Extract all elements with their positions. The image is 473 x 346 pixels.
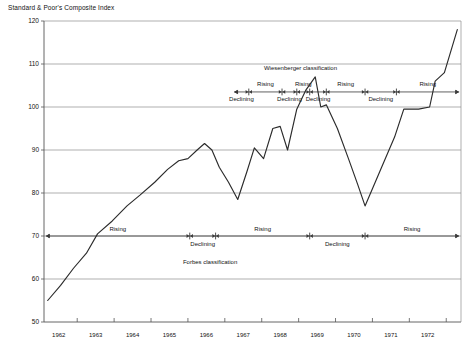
y-tick-label-60: 60 <box>32 275 40 282</box>
segment-arrow-start <box>46 234 49 238</box>
segment-arrow-start <box>310 90 313 94</box>
segment-label-rising: Rising <box>254 226 271 232</box>
annotation-band-0: Wiesenberger classificationDecliningRisi… <box>229 65 459 102</box>
x-tick-label-1963: 1963 <box>89 332 103 338</box>
chart-page: Standard & Poor's Composite Index 506070… <box>0 0 473 346</box>
segment-arrow-start <box>297 90 300 94</box>
segment-arrow-end <box>187 234 190 238</box>
y-tick-label-50: 50 <box>32 318 40 325</box>
x-tick-label-1969: 1969 <box>310 332 324 338</box>
y-tick-label-100: 100 <box>28 103 39 110</box>
x-tick-label-1967: 1967 <box>237 332 251 338</box>
y-tick-label-90: 90 <box>32 146 40 153</box>
segment-label-declining: Declining <box>229 96 254 102</box>
plot-frame <box>44 21 461 322</box>
segment-arrow-end <box>456 90 459 94</box>
y-tick-label-110: 110 <box>29 60 40 67</box>
x-tick-label-1971: 1971 <box>384 332 398 338</box>
segment-label-rising: Rising <box>109 226 126 232</box>
segment-label-declining: Declining <box>368 96 393 102</box>
segment-label-rising: Rising <box>257 81 274 87</box>
x-tick-label-1965: 1965 <box>163 332 177 338</box>
segment-label-rising: Rising <box>337 81 354 87</box>
segment-arrow-start <box>365 234 368 238</box>
x-tick-label-1966: 1966 <box>200 332 214 338</box>
segment-arrow-start <box>365 90 368 94</box>
segment-arrow-end <box>362 90 365 94</box>
segment-arrow-end <box>279 90 282 94</box>
annotation-band-1: Forbes classificationRisingDecliningRisi… <box>46 226 459 265</box>
segment-arrow-end <box>323 90 326 94</box>
segment-arrow-end <box>306 90 309 94</box>
x-tick-label-1962: 1962 <box>52 332 66 338</box>
segment-arrow-start <box>327 90 330 94</box>
segment-arrow-start <box>310 234 313 238</box>
x-tick-label-1968: 1968 <box>273 332 287 338</box>
y-axis-tick-labels: 5060708090100110120 <box>28 17 39 325</box>
segment-arrow-end <box>456 234 459 238</box>
x-tick-label-1970: 1970 <box>347 332 361 338</box>
segment-arrow-end <box>306 234 309 238</box>
band-title: Wiesenberger classification <box>264 65 337 71</box>
segment-arrow-end <box>246 90 249 94</box>
y-tick-label-70: 70 <box>32 232 40 239</box>
y-tick-label-120: 120 <box>28 17 39 24</box>
y-tick-label-80: 80 <box>32 189 40 196</box>
segment-arrow-end <box>294 90 297 94</box>
band-title: Forbes classification <box>183 259 237 265</box>
line-chart: 5060708090100110120 19621963196419651966… <box>0 0 473 346</box>
x-axis-ticks <box>77 318 446 322</box>
segment-arrow-start <box>282 90 285 94</box>
data-series <box>48 30 458 301</box>
segment-arrow-start <box>216 234 219 238</box>
segment-arrow-start <box>249 90 252 94</box>
segment-arrow-start <box>190 234 193 238</box>
segment-label-declining: Declining <box>306 96 331 102</box>
series-line-0 <box>48 30 458 301</box>
gridlines <box>44 21 461 279</box>
x-axis-tick-labels: 1962196319641965196619671968196919701971… <box>52 332 435 338</box>
segment-arrow-start <box>234 90 237 94</box>
segment-label-rising: Rising <box>404 226 421 232</box>
segment-label-declining: Declining <box>325 241 350 247</box>
classification-bands: Wiesenberger classificationDecliningRisi… <box>46 65 459 265</box>
x-tick-label-1964: 1964 <box>126 332 140 338</box>
segment-label-declining: Declining <box>190 241 215 247</box>
segment-label-declining: Declining <box>277 96 302 102</box>
segment-label-rising: Rising <box>295 81 312 87</box>
segment-arrow-end <box>212 234 215 238</box>
segment-arrow-end <box>393 90 396 94</box>
x-tick-label-1972: 1972 <box>421 332 435 338</box>
segment-arrow-end <box>362 234 365 238</box>
segment-arrow-start <box>397 90 400 94</box>
